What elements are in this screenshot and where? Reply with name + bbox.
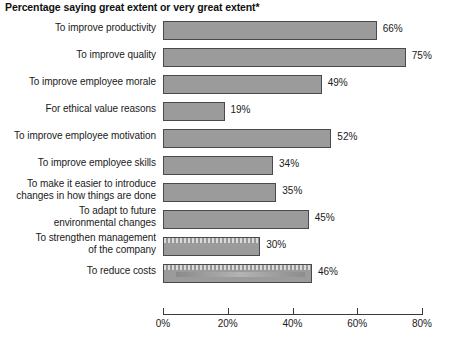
bar-row: To strengthen managementof the company30… [0,234,450,261]
x-axis-tick-label: 40% [273,318,313,329]
bar-value-label: 35% [282,185,302,196]
x-axis-tick [293,308,294,315]
category-label: To improve employee morale [0,76,156,88]
x-axis-tick [422,308,423,315]
bar-row: To improve employee morale49% [0,72,450,99]
bar [163,102,225,121]
x-axis-tick-label: 80% [402,318,442,329]
bar-row: To reduce costs46% [0,261,450,288]
bar-value-label: 19% [231,104,251,115]
bar-row: To improve employee skills34% [0,153,450,180]
x-axis-tick-label: 20% [208,318,248,329]
bar-value-label: 45% [315,212,335,223]
bar-row: To improve productivity66% [0,18,450,45]
x-axis-tick [163,308,164,315]
bar-row: To improve employee motivation52% [0,126,450,153]
category-label: To improve quality [0,49,156,61]
category-label-line: changes in how things are done [0,190,156,202]
bar-value-label: 34% [279,158,299,169]
category-label-line: To make it easier to introduce [0,178,156,190]
x-axis-tick-label: 60% [337,318,377,329]
category-label-line: To improve quality [0,49,156,61]
category-label: To strengthen managementof the company [0,232,156,255]
x-axis-tick-label: 0% [143,318,183,329]
category-label: For ethical value reasons [0,103,156,115]
bar [163,183,276,202]
bar [163,129,331,148]
category-label-line: environmental changes [0,217,156,229]
bar [163,264,312,283]
category-label: To improve productivity [0,22,156,34]
bar-value-label: 75% [412,50,432,61]
x-axis-tick [228,308,229,315]
category-label-line: To improve employee motivation [0,130,156,142]
x-axis: 0%20%40%60%80% [0,308,450,340]
category-label: To adapt to futureenvironmental changes [0,205,156,228]
bar-value-label: 52% [337,131,357,142]
bar-row: To adapt to futureenvironmental changes4… [0,207,450,234]
bar-value-label: 46% [318,266,338,277]
category-label-line: To improve employee morale [0,76,156,88]
bar-value-label: 30% [266,239,286,250]
bar [163,237,260,256]
bar-row: To improve quality75% [0,45,450,72]
bar [163,75,322,94]
category-label-line: To reduce costs [0,265,156,277]
bar [163,210,309,229]
category-label: To reduce costs [0,265,156,277]
bar-chart: Percentage saying great extent or very g… [0,0,450,340]
category-label: To make it easier to introducechanges in… [0,178,156,201]
category-label: To improve employee skills [0,157,156,169]
category-label-line: For ethical value reasons [0,103,156,115]
category-label: To improve employee motivation [0,130,156,142]
category-label-line: of the company [0,244,156,256]
x-axis-tick [357,308,358,315]
bar [163,21,377,40]
bar-row: To make it easier to introducechanges in… [0,180,450,207]
plot-area: To improve productivity66%To improve qua… [0,18,450,308]
category-label-line: To strengthen management [0,232,156,244]
category-label-line: To improve productivity [0,22,156,34]
bar [163,156,273,175]
bar-row: For ethical value reasons19% [0,99,450,126]
bar-value-label: 66% [383,23,403,34]
category-label-line: To adapt to future [0,205,156,217]
bar-value-label: 49% [328,77,348,88]
category-label-line: To improve employee skills [0,157,156,169]
chart-title: Percentage saying great extent or very g… [5,1,260,13]
bar [163,48,406,67]
